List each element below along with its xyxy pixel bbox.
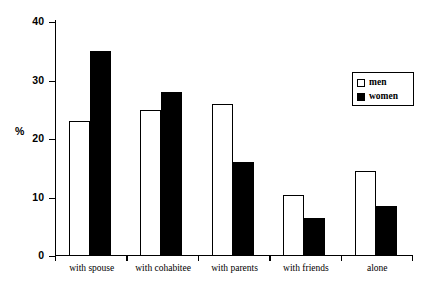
category-label: with spouse [69, 263, 114, 273]
bar-men-alone [355, 171, 376, 256]
y-axis-tick-label: 10 [32, 190, 44, 205]
y-axis-tick: 10 [49, 198, 55, 199]
y-axis-title: % [15, 125, 24, 137]
legend-item-men: men [357, 76, 413, 89]
y-axis-tick-label: 40 [32, 14, 44, 29]
category-label: with cohabitee [135, 263, 191, 273]
y-axis-tick-label: 0 [38, 248, 44, 263]
y-axis-tick: 20 [49, 139, 55, 140]
bar-women-with-friends [304, 218, 325, 256]
bar-women-with-spouse [90, 51, 111, 256]
y-axis-tick: 30 [49, 81, 55, 82]
legend-item-women: women [357, 90, 413, 103]
category-label: with parents [211, 263, 258, 273]
legend: men women [352, 72, 414, 106]
bar-women-alone [376, 206, 397, 256]
bar-men-with-friends [283, 195, 304, 256]
y-axis-tick-label: 20 [32, 131, 44, 146]
bar-chart: % 010203040 with spousewith cohabiteewit… [0, 0, 439, 291]
bar-men-with-parents [212, 104, 233, 256]
bar-women-with-parents [233, 162, 254, 256]
y-axis-tick-label: 30 [32, 73, 44, 88]
bar-women-with-cohabitee [161, 92, 182, 256]
legend-swatch-men-icon [357, 79, 365, 87]
legend-label-women: women [369, 91, 398, 102]
y-axis-tick: 40 [49, 22, 55, 23]
legend-swatch-women-icon [357, 93, 365, 101]
category-label: alone [367, 263, 388, 273]
bar-men-with-cohabitee [140, 110, 161, 256]
bar-men-with-spouse [69, 121, 90, 256]
legend-label-men: men [369, 77, 386, 88]
plot-area [56, 22, 413, 256]
category-label: with friends [283, 263, 329, 273]
